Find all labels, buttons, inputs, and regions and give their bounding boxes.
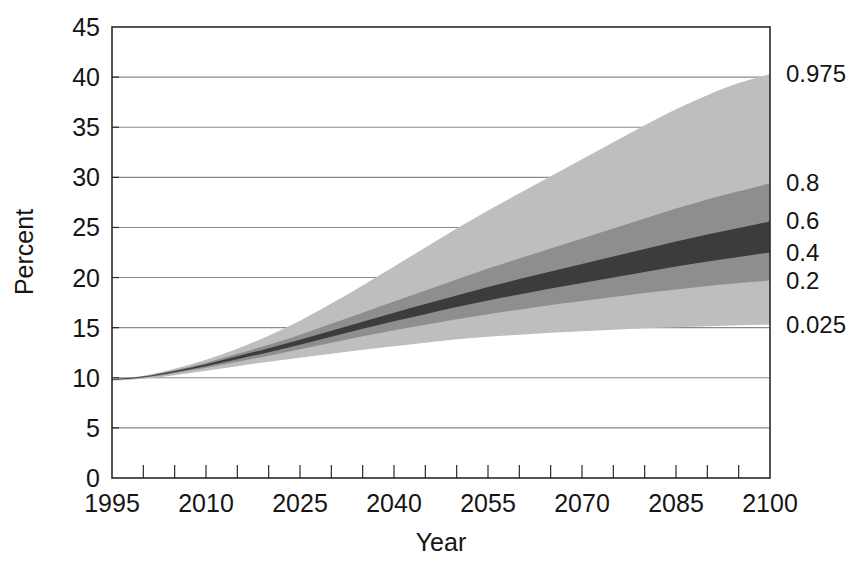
x-axis-title: Year xyxy=(416,528,467,556)
x-tick-label-2010: 2010 xyxy=(178,489,234,517)
x-tick-label-2040: 2040 xyxy=(366,489,422,517)
y-tick-label-30: 30 xyxy=(72,163,100,191)
x-tick-label-2085: 2085 xyxy=(648,489,704,517)
percentile-label-0-975: 0.975 xyxy=(786,60,846,87)
percentile-label-0-8: 0.8 xyxy=(786,169,819,196)
y-tick-label-25: 25 xyxy=(72,213,100,241)
y-tick-label-20: 20 xyxy=(72,264,100,292)
y-tick-label-15: 15 xyxy=(72,314,100,342)
fan-chart-figure: 19952010202520402055207020852100 0510152… xyxy=(0,0,865,575)
percentile-label-0-025: 0.025 xyxy=(786,311,846,338)
x-tick-label-2100: 2100 xyxy=(742,489,798,517)
y-tick-label-5: 5 xyxy=(86,414,100,442)
y-axis-title: Percent xyxy=(10,209,38,295)
y-tick-label-40: 40 xyxy=(72,63,100,91)
percentile-label-0-2: 0.2 xyxy=(786,267,819,294)
y-tick-label-45: 45 xyxy=(72,13,100,41)
x-tick-label-2025: 2025 xyxy=(272,489,328,517)
chart-canvas: 19952010202520402055207020852100 0510152… xyxy=(0,0,865,575)
y-tick-label-35: 35 xyxy=(72,113,100,141)
percentile-label-0-4: 0.4 xyxy=(786,239,819,266)
x-tick-label-2055: 2055 xyxy=(460,489,516,517)
x-tick-label-1995: 1995 xyxy=(84,489,140,517)
y-tick-label-0: 0 xyxy=(86,464,100,492)
y-tick-label-10: 10 xyxy=(72,364,100,392)
x-tick-label-2070: 2070 xyxy=(554,489,610,517)
percentile-label-0-6: 0.6 xyxy=(786,207,819,234)
